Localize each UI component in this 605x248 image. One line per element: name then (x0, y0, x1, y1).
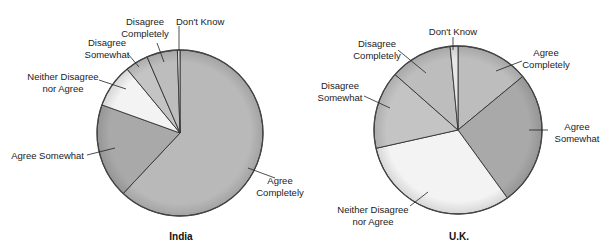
pie-charts-figure: Agree Completely Agree Somewhat Neither … (0, 0, 605, 248)
uk-pie-shading (374, 46, 542, 214)
india-pie-shading (97, 50, 263, 216)
uk-chart-title: U.K. (449, 231, 469, 242)
india-label-disagree-somewhat-2: Somewhat (85, 49, 130, 60)
uk-label-disagree-somewhat-1: Disagree (321, 80, 359, 91)
india-chart-title: India (169, 231, 193, 242)
india-label-agree-completely-1: Agree (267, 175, 292, 186)
uk-label-disagree-completely-2: Completely (353, 50, 401, 61)
uk-label-disagree-somewhat-2: Somewhat (318, 92, 363, 103)
uk-label-disagree-completely-1: Disagree (358, 38, 396, 49)
india-label-neither-2: nor Agree (42, 83, 83, 94)
india-label-disagree-completely-2: Completely (121, 28, 169, 39)
uk-label-neither-1: Neither Disagree (337, 204, 408, 215)
india-label-agree-somewhat: Agree Somewhat (11, 150, 84, 161)
uk-label-agree-somewhat-1: Agree (564, 121, 589, 132)
uk-label-agree-completely-1: Agree (533, 47, 558, 58)
india-label-agree-completely-2: Completely (256, 187, 304, 198)
india-label-neither-1: Neither Disagree (27, 71, 98, 82)
uk-pie-chart (374, 46, 542, 214)
india-pie-chart (97, 50, 263, 216)
uk-label-dont-know: Don't Know (429, 26, 477, 37)
uk-label-neither-2: nor Agree (352, 216, 393, 227)
india-label-disagree-completely-1: Disagree (126, 16, 164, 27)
uk-label-agree-completely-2: Completely (522, 59, 570, 70)
india-label-dont-know: Don't Know (176, 16, 224, 27)
uk-label-agree-somewhat-2: Somewhat (555, 133, 600, 144)
